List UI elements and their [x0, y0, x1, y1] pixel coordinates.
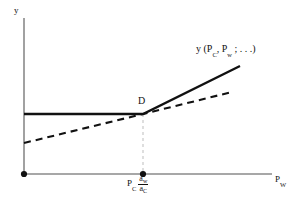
- solid-output-curve: [24, 66, 240, 114]
- curve-label: y (PC, Pw ; . . .): [196, 44, 256, 57]
- curve-label-sub-w: w: [227, 51, 232, 58]
- curve-label-tail: ; . . .): [232, 43, 256, 54]
- y-axis-label: y: [14, 6, 19, 15]
- x-axis-label-subscript: W: [280, 181, 286, 188]
- curve-label-mid: , P: [217, 43, 228, 54]
- curve-label-lead: y (P: [196, 43, 212, 54]
- fraction-numerator-subscript: w: [143, 178, 147, 184]
- origin-dot-marker: [21, 171, 27, 177]
- curve-label-sub-c: C: [212, 51, 216, 58]
- kink-point-label: D: [138, 96, 145, 106]
- fraction-denominator: aC: [139, 185, 149, 194]
- x-tick-label-base: PC: [127, 179, 136, 190]
- dashed-reference-line: [24, 92, 232, 143]
- x-tick-label: PC aw aC: [127, 176, 148, 194]
- x-axis-label: PW: [275, 175, 286, 186]
- x-tick-base-subscript: C: [132, 185, 136, 192]
- figure-container: y PW y (PC, Pw ; . . .) D PC aw aC: [0, 0, 303, 206]
- x-tick-fraction: aw aC: [138, 175, 148, 193]
- fraction-denominator-subscript: C: [143, 188, 147, 194]
- plot-canvas: [0, 0, 303, 206]
